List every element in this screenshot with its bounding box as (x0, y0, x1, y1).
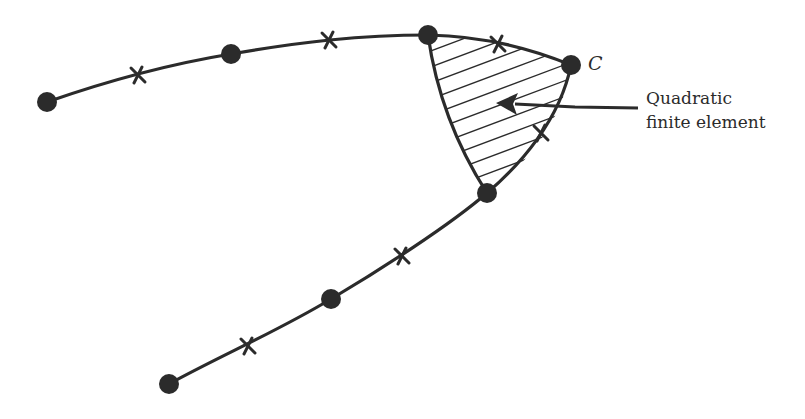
element-label-line2: finite element (646, 110, 766, 134)
element-label: Quadratic finite element (646, 86, 766, 134)
node-dot (221, 44, 241, 64)
node-dot (561, 55, 581, 75)
leader-line (515, 104, 638, 108)
finite-element-diagram (0, 0, 805, 419)
node-dot (321, 289, 341, 309)
element-label-line1: Quadratic (646, 86, 766, 110)
node-dot (418, 25, 438, 45)
arrowhead-icon (496, 93, 518, 115)
node-dot (37, 92, 57, 112)
node-dot (159, 374, 179, 394)
element-inner-edge (428, 35, 487, 193)
corner-label: C (588, 52, 603, 74)
lower-boundary-curve (169, 65, 571, 384)
node-dot (477, 183, 497, 203)
